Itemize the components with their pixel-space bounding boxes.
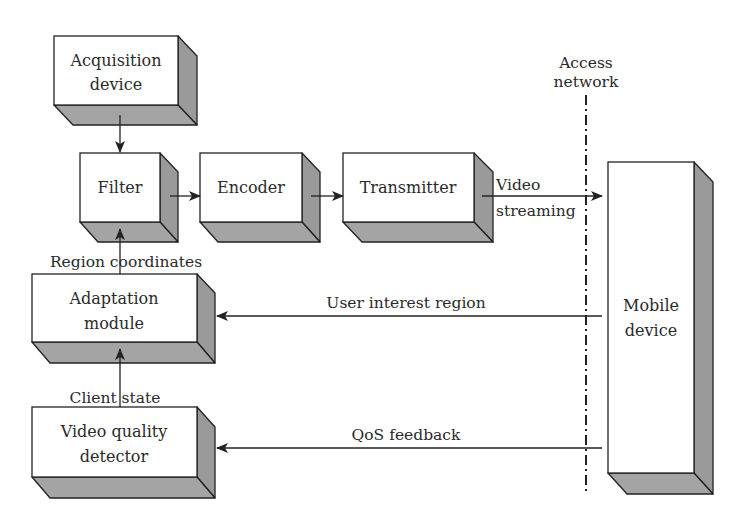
box-side-face: [694, 162, 713, 494]
node-label-line2: device: [90, 75, 142, 94]
node-filter: Filter: [80, 153, 178, 242]
node-label: Transmitter: [360, 178, 457, 197]
node-label-line2: detector: [80, 447, 149, 466]
box-front-face: [608, 162, 694, 473]
node-adaptation-module: Adaptation module: [32, 274, 215, 363]
box-bottom-face: [32, 477, 215, 498]
box-bottom-face: [80, 222, 178, 242]
edge-mobile-to-video-quality: QoS feedback: [217, 426, 602, 448]
node-mobile-device: Mobile device: [608, 162, 713, 494]
box-bottom-face: [608, 473, 713, 494]
node-label-line1: Adaptation: [68, 289, 158, 308]
box-front-face: [32, 407, 197, 477]
node-label-line2: device: [625, 321, 677, 340]
node-label-line1: Mobile: [623, 296, 679, 315]
edge-label-streaming: streaming: [496, 202, 576, 220]
edge-label-client-state: Client state: [70, 389, 161, 407]
edge-transmitter-to-mobile: Video streaming: [482, 176, 602, 220]
node-acquisition-device: Acquisition device: [54, 36, 197, 125]
node-label-line1: Video quality: [60, 422, 168, 441]
box-bottom-face: [54, 105, 197, 125]
edge-label-region-coordinates: Region coordinates: [50, 253, 202, 271]
node-video-quality-detector: Video quality detector: [32, 407, 215, 498]
node-label: Filter: [98, 178, 143, 197]
node-encoder: Encoder: [200, 153, 320, 242]
node-transmitter: Transmitter: [343, 153, 493, 242]
edge-label-user-interest-region: User interest region: [326, 294, 485, 312]
box-bottom-face: [200, 222, 320, 242]
access-network-label-line2: network: [554, 73, 619, 91]
node-label: Encoder: [217, 178, 285, 197]
node-label-line1: Acquisition: [70, 51, 162, 70]
diagram-canvas: Access network Acquisition device Filter…: [0, 0, 736, 521]
node-label-line2: module: [84, 314, 144, 333]
box-bottom-face: [343, 222, 493, 242]
edge-mobile-to-adaptation: User interest region: [217, 294, 602, 316]
box-bottom-face: [32, 342, 215, 363]
edge-label-video: Video: [495, 176, 540, 194]
edge-label-qos-feedback: QoS feedback: [352, 426, 461, 444]
access-network-label-line1: Access: [558, 54, 613, 72]
box-front-face: [54, 36, 178, 105]
